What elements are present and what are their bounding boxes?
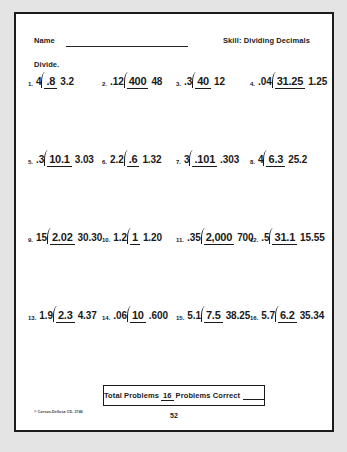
long-division: .531.115.55 — [261, 228, 326, 244]
quotient-answer[interactable]: 1 — [130, 231, 140, 245]
divisor: .3 — [36, 155, 44, 166]
problem-cell: 16.5.76.235.34 — [250, 306, 324, 384]
scanned-page-background: Name Skill: Dividing Decimals Divide. 1.… — [0, 0, 347, 452]
problem-number: 13. — [28, 315, 39, 322]
division-bracket-icon: 4012 — [192, 72, 227, 88]
divisor: .3 — [184, 77, 192, 88]
dividend: .303 — [217, 153, 241, 166]
long-division: 4.83.2 — [36, 72, 76, 88]
problem-9: 9.152.0230.30 — [28, 228, 104, 244]
quotient-answer[interactable]: .6 — [127, 153, 140, 167]
division-bracket-icon: .101.303 — [189, 150, 241, 166]
problem-5: 5..310.13.03 — [28, 150, 96, 166]
problem-number: 9. — [28, 237, 36, 244]
divisor: 5.7 — [261, 311, 275, 322]
dividend: 4.37 — [75, 309, 99, 322]
quotient-answer[interactable]: 2,000 — [204, 231, 235, 245]
divisor: .06 — [113, 311, 127, 322]
name-input-line[interactable] — [66, 46, 188, 47]
divisor: 2.2 — [110, 155, 124, 166]
division-bracket-icon: 2,000700 — [201, 228, 256, 244]
quotient-answer[interactable]: 31.1 — [272, 231, 297, 245]
quotient-answer[interactable]: 40 — [195, 75, 211, 89]
problem-number: 15. — [176, 315, 187, 322]
problem-number: 2. — [102, 81, 110, 88]
long-division: .34012 — [184, 72, 227, 88]
divisor: .35 — [187, 233, 201, 244]
division-bracket-icon: 31.251.25 — [272, 72, 330, 88]
quotient-answer[interactable]: 7.5 — [204, 309, 223, 323]
problem-row: 1.4.83.22..12400483..340124..0431.251.25 — [28, 72, 324, 150]
quotient-answer[interactable]: 400 — [127, 75, 149, 89]
long-division: 1.211.20 — [113, 228, 164, 244]
skill-label: Skill: Dividing Decimals — [223, 36, 310, 45]
divisor: .12 — [110, 77, 124, 88]
long-division: .0431.251.25 — [258, 72, 329, 88]
long-division: 3.101.303 — [184, 150, 241, 166]
score-box: Total Problems 16 Problems Correct — [103, 385, 265, 406]
problem-cell: 9.152.0230.30 — [28, 228, 102, 306]
problem-number: 8. — [250, 159, 258, 166]
problem-12: 12..531.115.55 — [250, 228, 327, 244]
quotient-answer[interactable]: 2.3 — [56, 309, 75, 323]
problem-cell: 12..531.115.55 — [250, 228, 324, 306]
quotient-answer[interactable]: 6.3 — [266, 153, 285, 167]
dividend: 1.32 — [139, 153, 163, 166]
division-bracket-icon: 6.235.34 — [275, 306, 326, 322]
dividend: 30.30 — [75, 231, 105, 244]
problem-row: 5..310.13.036.2.2.61.327.3.101.3038.46.3… — [28, 150, 324, 228]
worksheet-page-frame: Name Skill: Dividing Decimals Divide. 1.… — [14, 12, 334, 432]
problem-row: 9.152.0230.3010.1.211.2011..352,00070012… — [28, 228, 324, 306]
total-problems-label: Total Problems — [104, 391, 159, 400]
problem-number: 4. — [250, 81, 258, 88]
problem-2: 2..1240048 — [102, 72, 164, 88]
dividend: 25.2 — [285, 153, 309, 166]
division-bracket-icon: .83.2 — [41, 72, 75, 88]
problem-cell: 10.1.211.20 — [102, 228, 176, 306]
problem-15: 15.5.17.538.25 — [176, 306, 252, 322]
worksheet-sheet: Name Skill: Dividing Decimals Divide. 1.… — [16, 14, 332, 430]
problem-cell: 15.5.17.538.25 — [176, 306, 250, 384]
long-division: 46.325.2 — [258, 150, 309, 166]
long-division: .352,000700 — [187, 228, 256, 244]
division-bracket-icon: 7.538.25 — [201, 306, 252, 322]
problems-correct-input-line[interactable] — [243, 392, 264, 400]
quotient-answer[interactable]: .8 — [44, 75, 57, 89]
problem-cell: 6.2.2.61.32 — [102, 150, 176, 228]
problem-8: 8.46.325.2 — [250, 150, 309, 166]
long-division: .310.13.03 — [36, 150, 96, 166]
problem-cell: 3..34012 — [176, 72, 250, 150]
division-bracket-icon: 2.34.37 — [53, 306, 99, 322]
division-bracket-icon: 11.20 — [127, 228, 164, 244]
quotient-answer[interactable]: 2.02 — [50, 231, 75, 245]
quotient-answer[interactable]: 10.1 — [47, 153, 72, 167]
problem-4: 4..0431.251.25 — [250, 72, 329, 88]
divisor: 5.1 — [187, 311, 201, 322]
division-bracket-icon: 10.600 — [127, 306, 170, 322]
problem-number: 7. — [176, 159, 184, 166]
problem-13: 13.1.92.34.37 — [28, 306, 99, 322]
long-division: 152.0230.30 — [36, 228, 104, 244]
quotient-answer[interactable]: 31.25 — [275, 75, 306, 89]
problem-number: 14. — [102, 315, 113, 322]
problem-1: 1.4.83.2 — [28, 72, 76, 88]
problem-number: 5. — [28, 159, 36, 166]
quotient-answer[interactable]: 6.2 — [278, 309, 297, 323]
name-label: Name — [34, 36, 55, 45]
problem-cell: 8.46.325.2 — [250, 150, 324, 228]
problem-6: 6.2.2.61.32 — [102, 150, 163, 166]
division-bracket-icon: 31.115.55 — [269, 228, 326, 244]
divisor: .5 — [261, 233, 269, 244]
problem-14: 14..0610.600 — [102, 306, 170, 322]
long-division: 2.2.61.32 — [110, 150, 163, 166]
long-division: 5.17.538.25 — [187, 306, 252, 322]
problem-cell: 4..0431.251.25 — [250, 72, 324, 150]
divisor: .04 — [258, 77, 272, 88]
division-bracket-icon: .61.32 — [124, 150, 164, 166]
quotient-answer[interactable]: 10 — [130, 309, 146, 323]
dividend: .600 — [146, 309, 170, 322]
problem-number: 1. — [28, 81, 36, 88]
problem-7: 7.3.101.303 — [176, 150, 241, 166]
problem-number: 11. — [176, 237, 187, 244]
quotient-answer[interactable]: .101 — [192, 153, 217, 167]
